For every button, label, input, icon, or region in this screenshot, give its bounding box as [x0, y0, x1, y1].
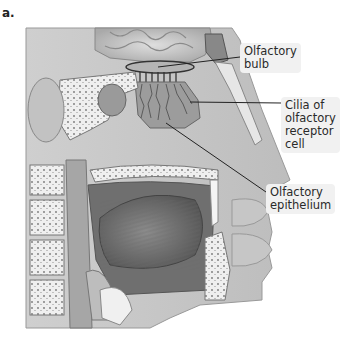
upper-incisor	[210, 180, 218, 226]
label-line: cell	[285, 138, 336, 151]
label-olfactory-bulb: Olfactory bulb	[240, 43, 301, 73]
label-line: bulb	[244, 58, 297, 71]
label-line: epithelium	[270, 199, 331, 212]
sinus-cavity	[98, 84, 126, 116]
ear-region	[28, 78, 64, 142]
olfactory-nerve-fibers	[140, 72, 176, 82]
cervical-vertebrae	[30, 165, 64, 315]
label-olfactory-epithelium: Olfactory epithelium	[266, 184, 335, 214]
label-cilia-of-olfactory-receptor-cell: Cilia of olfactory receptor cell	[281, 97, 340, 153]
